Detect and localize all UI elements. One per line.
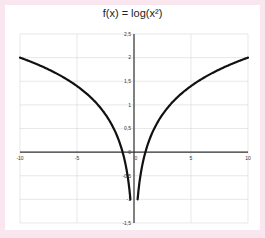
x-tick-label: 5 [190,155,193,161]
y-tick-label: 2 [128,54,131,60]
y-tick-label: 0,5 [124,125,131,131]
plot-area: 2,521,510,50-0,5-1-1,5-10-50510 [0,0,265,238]
x-tick-label: -5 [75,155,80,161]
y-tick-label: 0 [128,149,131,155]
y-tick-label: 1 [128,102,131,108]
y-tick-label: -1,5 [122,220,131,226]
x-tick-label: 0 [135,155,138,161]
x-tick-label: 10 [245,155,251,161]
x-tick-label: -10 [16,155,23,161]
y-tick-label: 2,5 [124,31,131,37]
y-tick-label: 1,5 [124,78,131,84]
